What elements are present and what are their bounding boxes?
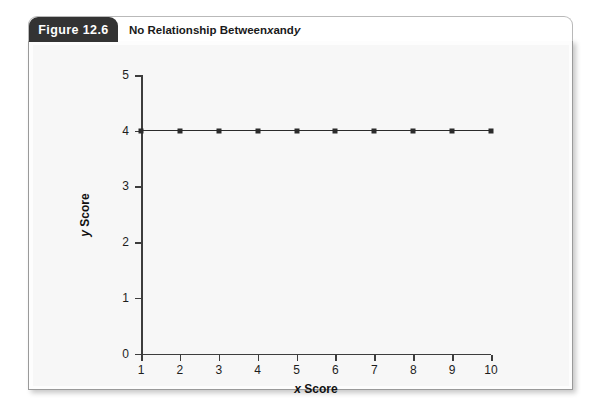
x-tick-mark: [297, 355, 299, 361]
series-line-segment: [141, 130, 180, 132]
x-tick-label: 10: [476, 363, 506, 377]
series-line-segment: [297, 130, 336, 132]
x-axis-title-rest: Score: [301, 382, 338, 396]
data-point-marker: [139, 128, 144, 133]
x-tick-mark: [491, 355, 493, 361]
y-tick-label: 4: [107, 124, 129, 138]
y-axis-title-rest: Score: [78, 193, 92, 230]
figure-title: No Relationship Between x and y: [129, 17, 300, 42]
y-tick-label: 1: [107, 291, 129, 305]
figure-title-prefix: No Relationship Between: [129, 24, 267, 36]
y-tick-label: 0: [107, 347, 129, 361]
x-tick-label: 7: [359, 363, 389, 377]
series-line-segment: [374, 130, 413, 132]
y-tick-mark: [135, 75, 141, 77]
data-point-marker: [372, 128, 377, 133]
series-line-segment: [180, 130, 219, 132]
x-tick-mark: [180, 355, 182, 361]
x-tick-label: 1: [126, 363, 156, 377]
y-axis-title-symbol: y: [78, 230, 92, 237]
y-tick-mark: [135, 242, 141, 244]
y-axis-title: y Score: [78, 193, 92, 236]
x-tick-mark: [258, 355, 260, 361]
series-line-segment: [219, 130, 258, 132]
series-line-segment: [335, 130, 374, 132]
x-tick-label: 5: [282, 363, 312, 377]
x-axis-title: x Score: [141, 382, 491, 396]
series-line-segment: [452, 130, 491, 132]
x-tick-label: 2: [165, 363, 195, 377]
x-tick-mark: [374, 355, 376, 361]
y-axis-line: [141, 75, 143, 355]
figure-number-tab: Figure 12.6: [29, 17, 118, 42]
figure-body: 012345 12345678910 y Score x Score: [28, 40, 573, 390]
data-point-marker: [411, 128, 416, 133]
data-point-marker: [294, 128, 299, 133]
x-tick-mark: [335, 355, 337, 361]
x-axis-title-symbol: x: [294, 382, 301, 396]
x-tick-label: 8: [398, 363, 428, 377]
x-tick-mark: [452, 355, 454, 361]
x-tick-mark: [219, 355, 221, 361]
data-point-marker: [216, 128, 221, 133]
figure-number-label: Figure 12.6: [38, 23, 108, 37]
x-tick-label: 9: [437, 363, 467, 377]
y-tick-label: 5: [107, 68, 129, 82]
data-point-marker: [177, 128, 182, 133]
figure-header: No Relationship Between x and y Figure 1…: [28, 16, 573, 41]
figure-title-y-symbol: y: [294, 24, 300, 36]
y-tick-label: 3: [107, 179, 129, 193]
x-axis-line: [141, 354, 491, 356]
y-tick-label: 2: [107, 235, 129, 249]
x-tick-mark: [413, 355, 415, 361]
series-line-segment: [258, 130, 297, 132]
data-point-marker: [333, 128, 338, 133]
x-tick-mark: [141, 355, 143, 361]
data-point-marker: [255, 128, 260, 133]
y-tick-mark: [135, 186, 141, 188]
figure-panel: 012345 12345678910 y Score x Score No Re…: [28, 16, 573, 390]
figure-title-middle: and: [273, 24, 293, 36]
x-tick-label: 6: [320, 363, 350, 377]
chart-area: 012345 12345678910 y Score x Score: [29, 41, 574, 391]
x-tick-label: 4: [243, 363, 273, 377]
data-point-marker: [489, 128, 494, 133]
y-tick-mark: [135, 298, 141, 300]
series-line-segment: [413, 130, 452, 132]
data-point-marker: [450, 128, 455, 133]
x-tick-label: 3: [204, 363, 234, 377]
